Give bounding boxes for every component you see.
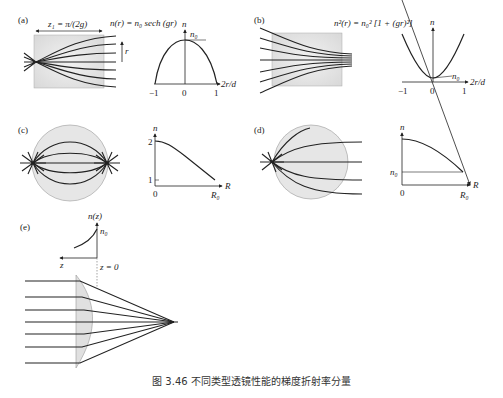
graph-a-tick: −1 — [149, 88, 159, 98]
graph-b: n n₀ 2r/d −1 0 1 — [398, 17, 486, 96]
graph-e-origin-label: z = 0 — [99, 262, 119, 272]
graph-c-xtick: 0 — [153, 189, 158, 199]
graph-e-y-label: n(z) — [88, 211, 102, 221]
graph-c-y-label: n — [153, 123, 158, 133]
curve-d — [402, 139, 463, 172]
r-label: r — [125, 46, 129, 56]
graph-b-x-label: 2r/d — [470, 77, 486, 87]
panel-d: (d) n n₀ R 0 R₀ — [254, 0, 479, 200]
graph-a: n n₀ 2r/d −1 0 1 — [149, 19, 237, 98]
graph-a-tick: 0 — [182, 88, 187, 98]
graph-e: n(z) n₀ z z = 0 — [59, 211, 119, 288]
graph-b-min-label: n₀ — [452, 71, 460, 81]
graph-b-tick: 1 — [462, 86, 467, 96]
graph-d-y-label: n — [400, 122, 405, 132]
figure-caption: 图 3.46 不同类型透镜性能的梯度折射率分量 — [0, 373, 503, 388]
panel-b: (b) n²(r) = n₀² [1 + (gr)²] n n₀ 2r/d −1… — [254, 15, 486, 96]
curve-e — [74, 229, 97, 248]
panel-a-tag: (a) — [18, 15, 28, 25]
formula-a: n(r) = n₀ sech (gr) — [110, 18, 177, 28]
rays-e — [25, 281, 178, 363]
graph-c: n 2 1 R 0 R₀ — [148, 123, 231, 200]
graph-e-peak-label: n₀ — [100, 226, 108, 236]
graph-b-tick: −1 — [398, 86, 408, 96]
sech-curve — [155, 40, 217, 84]
graph-a-tick: 1 — [214, 88, 219, 98]
luneburg-curve — [155, 141, 215, 180]
panel-c: (c) n 2 1 R 0 R₀ — [18, 123, 231, 201]
panel-c-tag: (c) — [18, 125, 28, 135]
graph-d-xtick: R₀ — [459, 190, 469, 200]
length-label: z₁ = π/(2g) — [47, 19, 87, 29]
panel-a: (a) z₁ = π/(2g) n(r) = n₀ sech (gr) r n … — [18, 15, 237, 98]
graph-a-x-label: 2r/d — [221, 79, 237, 89]
figure-canvas: (a) z₁ = π/(2g) n(r) = n₀ sech (gr) r n … — [0, 0, 503, 398]
graph-d-ytick: n₀ — [390, 167, 398, 177]
graph-c-ytick: 2 — [148, 137, 153, 147]
graph-c-xtick: R₀ — [210, 190, 220, 200]
panel-b-tag: (b) — [254, 15, 265, 25]
graph-d-x-label: R — [472, 180, 479, 190]
graph-d-xtick: 0 — [400, 188, 405, 198]
graph-c-ytick: 1 — [148, 175, 153, 185]
graph-c-x-label: R — [224, 181, 231, 191]
formula-b: n²(r) = n₀² [1 + (gr)²] — [334, 18, 413, 28]
graph-a-y-label: n — [182, 19, 187, 29]
graph-d: n n₀ R 0 R₀ — [390, 0, 479, 200]
panel-e-tag: (e) — [20, 222, 30, 232]
graph-b-y-label: n — [430, 17, 435, 27]
panel-d-tag: (d) — [254, 125, 265, 135]
graph-a-peak-label: n₀ — [190, 29, 198, 39]
panel-e: (e) n(z) n₀ z z = 0 — [20, 211, 178, 368]
graph-e-x-label: z — [59, 260, 64, 270]
